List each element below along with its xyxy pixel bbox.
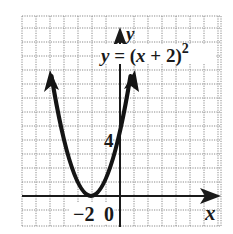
- tick-label-y-4: 4: [104, 130, 114, 151]
- parabola-curve: [52, 76, 131, 196]
- equation-exponent: 2: [182, 41, 189, 56]
- x-axis: [22, 188, 221, 204]
- y-axis-label: y: [124, 23, 135, 44]
- equation-label: y = (x + 2)2: [99, 41, 189, 67]
- tick-label-x-0: 0: [104, 203, 114, 225]
- tick-label-x-neg2: −2: [73, 203, 94, 225]
- curve-left-arrow-icon: [44, 70, 59, 92]
- parabola-graph: y x y = (x + 2)2 4 −2 0: [0, 0, 233, 234]
- x-axis-label: x: [204, 201, 216, 225]
